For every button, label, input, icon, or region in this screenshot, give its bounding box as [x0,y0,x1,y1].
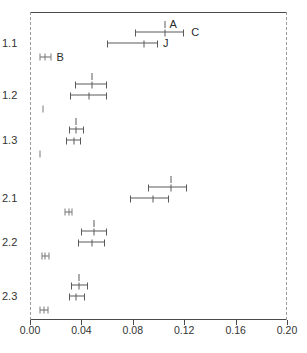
data-point-tick-upper [78,274,79,281]
errorbar-cap-high [168,196,169,203]
errorbar-lower [107,43,158,44]
series-label-b: B [56,51,63,63]
errorbar-center-tick [164,30,165,37]
errorbar-cap-high [84,294,85,301]
marker-tick [68,209,69,216]
errorbar-cap-high [80,138,81,145]
errorbar-cap-low [71,283,72,290]
marker-tick [40,54,41,61]
errorbar-lower [70,95,107,96]
plot-area [30,12,287,320]
frame-right-edge [286,12,287,320]
marker-tick [44,307,45,314]
marker-tick [45,54,46,61]
errorbar-cap-low [69,127,70,134]
errorbar-center-tick [73,138,74,145]
errorbar-cap-low [78,240,79,247]
x-tick-label: 0.08 [123,324,143,336]
marker-tick [47,307,48,314]
x-tick-label: 0.20 [277,324,297,336]
errorbar-cap-low [130,196,131,203]
marker-tick [72,209,73,216]
errorbar-upper [148,187,187,188]
series-label-a: A [169,18,176,30]
y-tick-label: 2.2 [2,236,17,248]
data-point-tick-upper [76,118,77,125]
data-point-tick-upper [91,73,92,80]
data-point-tick-upper [164,21,165,28]
errorbar-cap-low [75,82,76,89]
errorbar-upper [69,129,84,130]
errorbar-upper [75,84,107,85]
y-tick-label: 2.3 [2,290,17,302]
x-tick-label: 0.04 [71,324,91,336]
errorbar-center-tick [89,93,90,100]
y-tick-label: 2.1 [2,192,17,204]
errorbar-cap-low [66,138,67,145]
errorbar-cap-high [186,185,187,192]
marker-tick [40,307,41,314]
errorbar-cap-high [157,41,158,48]
errorbar-cap-high [106,93,107,100]
errorbar-lower [66,140,81,141]
errorbar-center-tick [78,283,79,290]
errorbar-cap-high [87,283,88,290]
data-point-tick-upper [171,176,172,183]
marker-tick [41,253,42,260]
errorbar-cap-high [183,30,184,37]
marker-tick [64,209,65,216]
y-tick-label: 1.1 [2,37,17,49]
errorbar-center-tick [153,196,154,203]
errorbar-cap-low [107,41,108,48]
frame-bottom-edge [30,319,287,320]
errorbar-cap-high [83,127,84,134]
errorbar-lower [78,242,105,243]
errorbar-center-tick [76,127,77,134]
marker-tick [42,106,43,113]
errorbar-cap-low [70,93,71,100]
errorbar-center-tick [94,229,95,236]
errorbar-cap-high [104,240,105,247]
errorbar-cap-low [69,294,70,301]
y-tick-label: 1.3 [2,134,17,146]
errorbar-center-tick [91,240,92,247]
x-tick-label: 0.12 [174,324,194,336]
frame-top-edge [30,12,287,13]
errorbar-cap-high [106,82,107,89]
marker-tick [45,253,46,260]
errorbar-center-tick [91,82,92,89]
marker-tick [40,151,41,158]
series-label-c: C [191,26,199,38]
frame-left-edge [30,12,31,320]
errorbar-center-tick [144,41,145,48]
errorbar-cap-low [81,229,82,236]
errorbar-lower [130,198,169,199]
errorbar-upper [135,32,184,33]
errorbar-cap-low [135,30,136,37]
marker-tick [50,54,51,61]
errorbar-center-tick [171,185,172,192]
errorbar-cap-low [148,185,149,192]
x-tick-label: 0.16 [225,324,245,336]
errorbar-upper [81,231,107,232]
chart-figure: 0.000.040.080.120.160.20 1.11.21.32.12.2… [0,0,307,353]
series-label-j: J [163,37,169,49]
errorbar-center-tick [76,294,77,301]
errorbar-upper [71,285,88,286]
y-tick-label: 1.2 [2,89,17,101]
errorbar-cap-high [106,229,107,236]
x-tick-label: 0.00 [20,324,40,336]
marker-tick [49,253,50,260]
data-point-tick-upper [94,220,95,227]
errorbar-lower [69,296,86,297]
